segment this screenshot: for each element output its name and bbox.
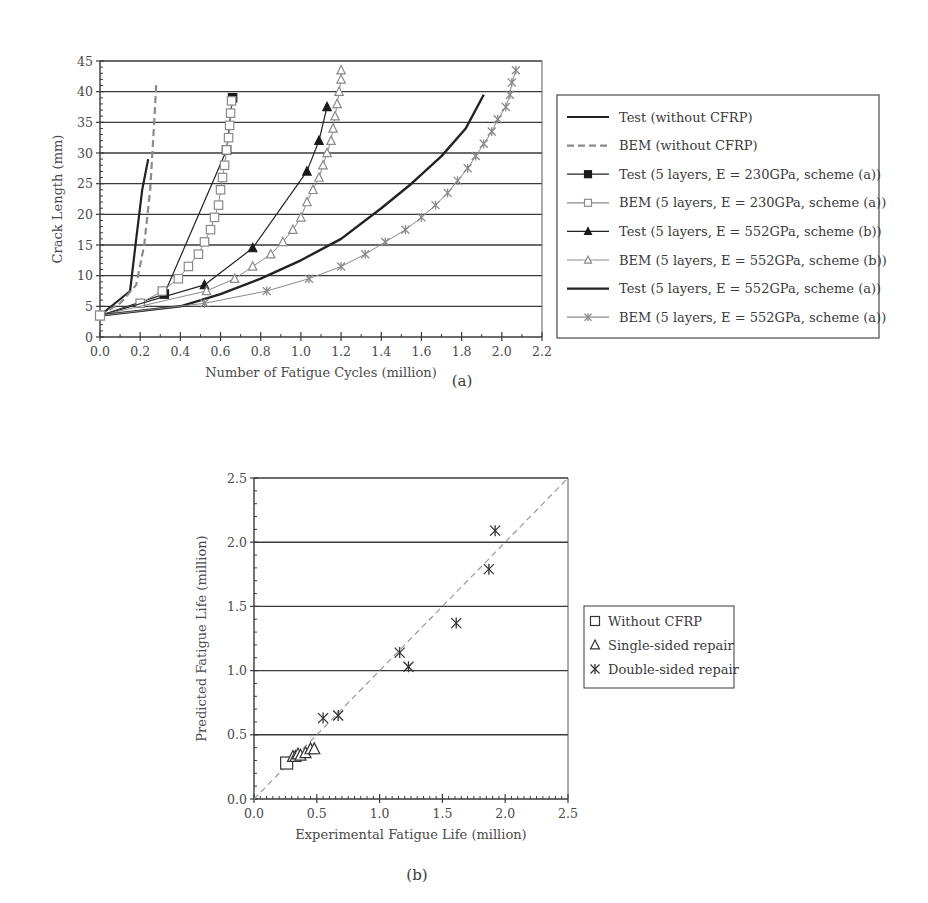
- x-tick-label: 1.0: [370, 806, 390, 821]
- triangle-marker: [329, 124, 337, 132]
- square-marker: [222, 146, 230, 154]
- legend-label: BEM (5 layers, E = 230GPa, scheme (a)): [619, 195, 886, 210]
- x-tick-label: 2.0: [492, 344, 512, 359]
- star-marker: [490, 525, 500, 536]
- x-axis-title: Experimental Fatigue Life (million): [295, 827, 526, 842]
- square-marker: [174, 275, 182, 283]
- star-marker: [484, 564, 494, 575]
- star-marker: [480, 139, 488, 148]
- chart-a-crack-growth: 0510152025303540450.00.20.40.60.81.01.21…: [50, 54, 887, 391]
- series-0: [100, 159, 148, 315]
- y-tick-label: 30: [77, 146, 93, 161]
- figure-canvas: 0510152025303540450.00.20.40.60.81.01.21…: [0, 0, 928, 903]
- triangle-marker: [309, 185, 317, 193]
- star-marker: [337, 262, 345, 271]
- star-marker: [305, 274, 313, 283]
- star-marker: [451, 618, 461, 629]
- square-marker: [214, 201, 222, 209]
- star-marker: [333, 710, 343, 721]
- x-tick-label: 1.6: [412, 344, 432, 359]
- series-line: [100, 98, 233, 316]
- square-marker: [585, 199, 592, 206]
- triangle-marker: [248, 262, 256, 270]
- legend-item: Without CFRP: [591, 614, 703, 629]
- series-3: [96, 97, 236, 320]
- x-tick-label: 1.2: [331, 344, 351, 359]
- y-tick-label: 45: [77, 54, 93, 69]
- star-marker: [381, 238, 389, 247]
- square-marker: [227, 97, 235, 105]
- square-marker: [225, 121, 233, 129]
- scatter-series-1: [287, 743, 319, 762]
- y-tick-label: 5: [85, 299, 93, 314]
- y-tick-label: 1.0: [227, 663, 247, 678]
- x-tick-label: 0.2: [130, 344, 150, 359]
- star-marker: [395, 647, 405, 658]
- y-axis-title: Crack Length (mm): [50, 135, 65, 264]
- square-marker: [585, 171, 592, 178]
- star-marker: [464, 164, 472, 173]
- y-axis-title: Predicted Fatigue Life (million): [194, 535, 209, 741]
- star-marker: [502, 103, 510, 112]
- square-marker: [216, 186, 224, 194]
- square-marker: [200, 238, 208, 246]
- square-marker: [220, 161, 228, 169]
- legend-label: Test (5 layers, E = 552GPa, scheme (b)): [619, 224, 882, 239]
- y-tick-label: 2.5: [227, 471, 247, 486]
- legend-label: Single-sided repair: [608, 638, 734, 653]
- star-marker: [494, 115, 502, 124]
- series-line: [100, 101, 232, 316]
- star-marker: [263, 287, 271, 296]
- legend-label: Double-sided repair: [608, 662, 740, 677]
- star-marker: [444, 188, 452, 197]
- triangle-marker: [337, 75, 345, 83]
- triangle-marker: [319, 161, 327, 169]
- caption-b: (b): [406, 866, 427, 884]
- star-marker: [506, 90, 514, 99]
- series-6: [100, 95, 484, 316]
- x-tick-label: 0.0: [90, 344, 110, 359]
- star-marker: [432, 201, 440, 210]
- legend-b: Without CFRPSingle-sided repairDouble-si…: [584, 606, 740, 688]
- chart-b-fatigue-life-comparison: 0.00.51.01.52.02.50.00.51.01.52.02.5Expe…: [194, 471, 740, 885]
- y-tick-label: 0.5: [227, 727, 247, 742]
- star-marker: [488, 127, 496, 136]
- x-tick-label: 0.5: [307, 806, 327, 821]
- legend-item: Double-sided repair: [591, 662, 740, 677]
- x-tick-label: 0.4: [170, 344, 190, 359]
- series-line: [100, 95, 484, 316]
- square-marker: [184, 262, 192, 270]
- star-marker: [318, 713, 328, 724]
- star-marker: [508, 78, 516, 87]
- legend-label: BEM (5 layers, E = 552GPa, scheme (a)): [619, 310, 886, 325]
- square-marker: [96, 311, 105, 320]
- legend-label: BEM (5 layers, E = 552GPa, scheme (b)): [619, 253, 887, 268]
- y-tick-label: 25: [77, 176, 93, 191]
- x-tick-label: 1.5: [432, 806, 452, 821]
- star-marker: [454, 176, 462, 185]
- square-marker: [224, 133, 232, 141]
- caption-a: (a): [452, 372, 473, 390]
- y-tick-label: 10: [77, 268, 93, 283]
- y-tick-label: 0.0: [227, 792, 247, 807]
- triangle-marker: [303, 167, 311, 175]
- star-marker: [403, 661, 413, 672]
- triangle-marker: [315, 173, 323, 181]
- y-tick-label: 35: [77, 115, 93, 130]
- x-tick-label: 1.8: [452, 344, 472, 359]
- legend-label: BEM (without CFRP): [619, 138, 758, 153]
- square-marker: [206, 225, 214, 233]
- x-tick-label: 1.4: [371, 344, 391, 359]
- star-marker: [417, 213, 425, 222]
- triangle-marker: [315, 136, 323, 144]
- legend-a: Test (without CFRP)BEM (without CFRP)Tes…: [557, 95, 887, 338]
- series-line: [100, 107, 327, 316]
- x-tick-label: 0.6: [211, 344, 231, 359]
- legend-label: Test (5 layers, E = 230GPa, scheme (a)): [619, 167, 881, 182]
- x-tick-label: 0.0: [244, 806, 264, 821]
- triangle-marker: [303, 197, 311, 205]
- legend-label: Without CFRP: [608, 614, 702, 629]
- triangle-marker: [323, 102, 331, 110]
- y-tick-label: 15: [77, 238, 93, 253]
- scatter-series-2: [318, 525, 500, 723]
